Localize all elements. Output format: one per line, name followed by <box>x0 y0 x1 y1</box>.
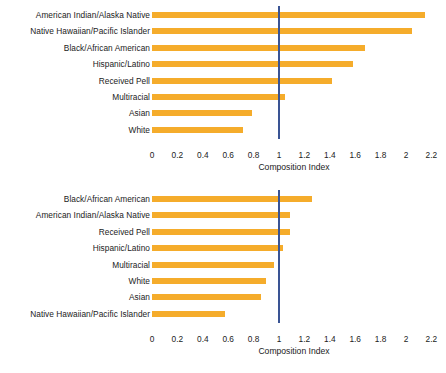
bar-fill <box>152 245 283 251</box>
bar-row: Black/African American <box>0 191 446 207</box>
bar-row: White <box>0 122 446 138</box>
bar-track <box>152 40 442 56</box>
bar-track <box>152 224 442 240</box>
bar-row: Received Pell <box>0 73 446 89</box>
x-axis-title-top: Composition Index <box>152 161 436 173</box>
bar-row: Multiracial <box>0 257 446 273</box>
bar-fill <box>152 229 290 235</box>
bar-category-label: White <box>2 122 150 138</box>
bar-category-label: Received Pell <box>2 73 150 89</box>
bar-category-label: Black/African American <box>2 191 150 207</box>
bar-row: American Indian/Alaska Native <box>0 207 446 223</box>
bar-category-label: Asian <box>2 289 150 305</box>
bar-track <box>152 7 442 23</box>
bar-track <box>152 289 442 305</box>
bar-row: Multiracial <box>0 89 446 105</box>
bar-category-label: Hispanic/Latino <box>2 56 150 72</box>
bar-track <box>152 273 442 289</box>
bar-track <box>152 306 442 322</box>
bar-fill <box>152 212 290 218</box>
bar-category-label: American Indian/Alaska Native <box>2 7 150 23</box>
chart-panel-top: American Indian/Alaska NativeNative Hawa… <box>0 0 446 186</box>
bar-track <box>152 257 442 273</box>
bar-track <box>152 23 442 39</box>
bar-fill <box>152 45 365 51</box>
bar-fill <box>152 278 266 284</box>
bar-fill <box>152 294 261 300</box>
bar-fill <box>152 78 332 84</box>
bar-fill <box>152 94 285 100</box>
bar-category-label: Multiracial <box>2 257 150 273</box>
bar-track <box>152 89 442 105</box>
bar-row: White <box>0 273 446 289</box>
bar-track <box>152 240 442 256</box>
chart-panel-bottom: Black/African AmericanAmerican Indian/Al… <box>0 186 446 373</box>
bar-row: Hispanic/Latino <box>0 56 446 72</box>
reference-line <box>278 6 280 139</box>
bar-track <box>152 105 442 121</box>
bar-track <box>152 191 442 207</box>
bar-fill <box>152 127 243 133</box>
bar-row: Black/African American <box>0 40 446 56</box>
bar-row: Native Hawaiian/Pacific Islander <box>0 306 446 322</box>
reference-line <box>278 190 280 323</box>
bar-row: Asian <box>0 105 446 121</box>
bar-fill <box>152 61 353 67</box>
bar-row: Received Pell <box>0 224 446 240</box>
bar-fill <box>152 311 225 317</box>
bar-row: Hispanic/Latino <box>0 240 446 256</box>
x-axis-title-bottom: Composition Index <box>152 345 436 357</box>
bar-category-label: American Indian/Alaska Native <box>2 207 150 223</box>
bar-fill <box>152 12 425 18</box>
figure-two-bar-charts: American Indian/Alaska NativeNative Hawa… <box>0 0 446 373</box>
bar-fill <box>152 196 312 202</box>
bar-category-label: Received Pell <box>2 224 150 240</box>
bar-track <box>152 56 442 72</box>
bar-track <box>152 73 442 89</box>
bar-category-label: Multiracial <box>2 89 150 105</box>
bar-category-label: Asian <box>2 105 150 121</box>
bar-row: Asian <box>0 289 446 305</box>
bar-fill <box>152 28 412 34</box>
bar-track <box>152 122 442 138</box>
bar-track <box>152 207 442 223</box>
bar-category-label: Native Hawaiian/Pacific Islander <box>2 306 150 322</box>
bar-category-label: Black/African American <box>2 40 150 56</box>
bar-category-label: Native Hawaiian/Pacific Islander <box>2 23 150 39</box>
bar-category-label: White <box>2 273 150 289</box>
bar-row: American Indian/Alaska Native <box>0 7 446 23</box>
bar-category-label: Hispanic/Latino <box>2 240 150 256</box>
bar-fill <box>152 110 252 116</box>
bar-fill <box>152 262 274 268</box>
bar-row: Native Hawaiian/Pacific Islander <box>0 23 446 39</box>
